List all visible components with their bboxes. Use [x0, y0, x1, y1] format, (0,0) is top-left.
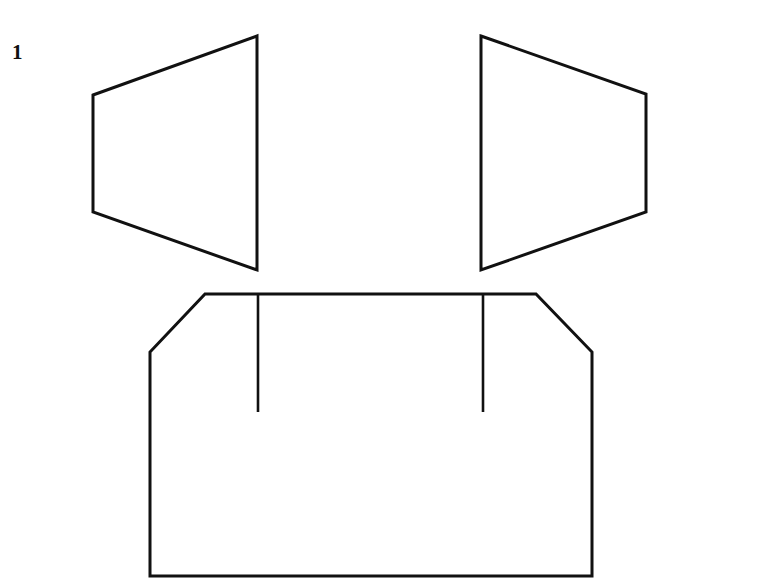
right-panel-shape: [481, 36, 646, 270]
technical-drawing: [0, 0, 764, 582]
base-body-shape: [150, 294, 592, 576]
figure-sheet: 1: [0, 0, 764, 582]
left-panel-shape: [93, 36, 257, 270]
